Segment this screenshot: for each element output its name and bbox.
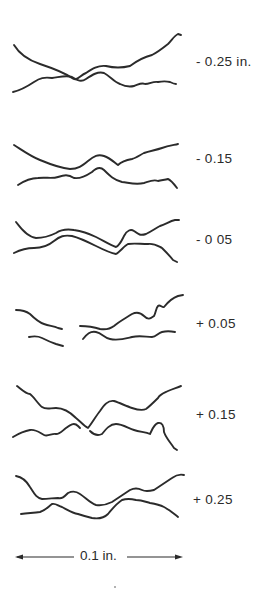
profile-5-lower-curve — [13, 424, 80, 437]
scale-bar-label: 0.1 in. — [77, 548, 120, 563]
profile-2-upper-curve — [14, 144, 178, 169]
profile-3-lower-curve — [14, 236, 177, 262]
profile-4-upper-right-curve — [80, 295, 183, 329]
profile-label-2: - 0.15 — [196, 151, 232, 166]
profile-4-lower-right-curve — [83, 331, 175, 340]
profile-pair-5 — [13, 386, 181, 450]
profile-6-lower-curve — [21, 499, 178, 519]
profile-4-upper-left-curve — [16, 310, 62, 329]
profile-3-upper-curve — [16, 220, 179, 247]
profile-label-5: + 0.15 — [196, 407, 236, 422]
profile-label-6: + 0.25 — [193, 492, 233, 507]
profile-2-lower-curve — [18, 168, 177, 188]
speck-mark — [114, 586, 116, 588]
profile-6-upper-curve — [16, 475, 184, 506]
arrow-right-icon — [175, 555, 183, 560]
profile-pair-3 — [14, 220, 179, 262]
profile-4-lower-left-curve — [29, 336, 63, 346]
profile-5-lower-right-curve — [90, 423, 177, 450]
arrow-left-icon — [15, 555, 23, 560]
profile-pair-1 — [13, 34, 181, 92]
profile-label-3: - 0 05 — [196, 232, 232, 247]
profile-pair-2 — [14, 144, 178, 188]
profile-pair-4 — [16, 295, 183, 346]
profile-pair-6 — [16, 475, 184, 519]
profile-1-lower-curve — [13, 72, 176, 92]
profile-label-1: - 0.25 in. — [196, 54, 252, 69]
profile-figure — [0, 0, 274, 590]
profile-label-4: + 0.05 — [196, 316, 236, 331]
profile-5-upper-curve — [17, 386, 181, 428]
